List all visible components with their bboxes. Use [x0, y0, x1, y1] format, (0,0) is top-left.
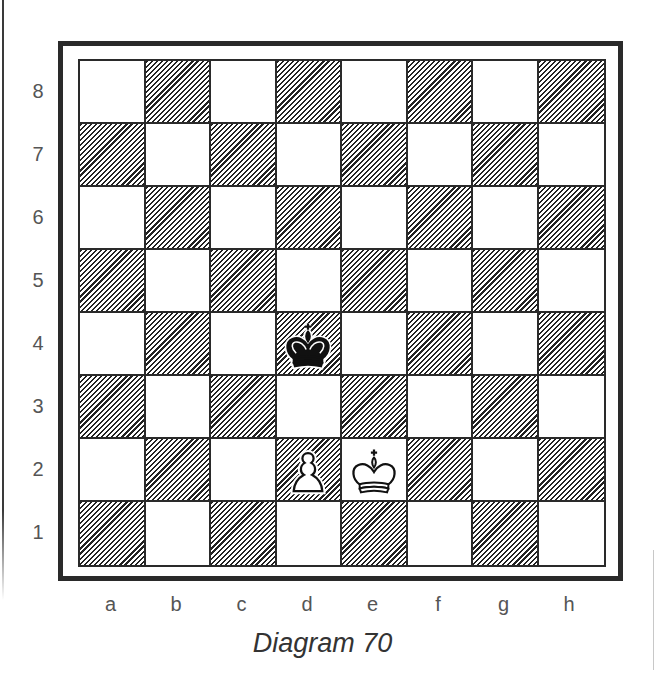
file-label-d: d — [297, 594, 317, 614]
square-h6 — [539, 187, 605, 250]
black-king-icon — [277, 313, 341, 374]
file-label-b: b — [166, 594, 186, 614]
square-h4 — [539, 313, 605, 376]
square-f3 — [408, 376, 474, 439]
square-h3 — [539, 376, 605, 439]
square-g3 — [473, 376, 539, 439]
square-h7 — [539, 124, 605, 187]
square-d1 — [277, 502, 343, 565]
file-label-e: e — [363, 594, 383, 614]
square-g8 — [473, 61, 539, 124]
square-g7 — [473, 124, 539, 187]
square-g1 — [473, 502, 539, 565]
rank-label-2: 2 — [28, 459, 48, 479]
rank-label-6: 6 — [28, 207, 48, 227]
file-label-f: f — [428, 594, 448, 614]
file-label-g: g — [494, 594, 514, 614]
rank-label-5: 5 — [28, 270, 48, 290]
square-f7 — [408, 124, 474, 187]
square-d8 — [277, 61, 343, 124]
square-h1 — [539, 502, 605, 565]
square-a2 — [80, 439, 146, 502]
rank-label-8: 8 — [28, 81, 48, 101]
square-g4 — [473, 313, 539, 376]
square-e1 — [342, 502, 408, 565]
square-d6 — [277, 187, 343, 250]
square-g5 — [473, 250, 539, 313]
white-king-icon — [342, 439, 406, 500]
square-b4 — [146, 313, 212, 376]
file-label-a: a — [101, 594, 121, 614]
page-edge-rule-right — [653, 550, 654, 670]
diagram-caption: Diagram 70 — [0, 628, 645, 659]
rank-label-7: 7 — [28, 144, 48, 164]
square-f1 — [408, 502, 474, 565]
square-a6 — [80, 187, 146, 250]
square-e2 — [342, 439, 408, 502]
square-f2 — [408, 439, 474, 502]
square-b5 — [146, 250, 212, 313]
square-g6 — [473, 187, 539, 250]
square-d7 — [277, 124, 343, 187]
square-b8 — [146, 61, 212, 124]
square-h5 — [539, 250, 605, 313]
page-edge-rule-left — [2, 0, 4, 600]
square-a8 — [80, 61, 146, 124]
square-h8 — [539, 61, 605, 124]
file-label-h: h — [559, 594, 579, 614]
square-d3 — [277, 376, 343, 439]
file-label-c: c — [232, 594, 252, 614]
square-e7 — [342, 124, 408, 187]
square-b2 — [146, 439, 212, 502]
square-a1 — [80, 502, 146, 565]
square-f8 — [408, 61, 474, 124]
white-pawn-icon — [277, 439, 341, 500]
square-c1 — [211, 502, 277, 565]
square-c4 — [211, 313, 277, 376]
rank-label-3: 3 — [28, 396, 48, 416]
square-b3 — [146, 376, 212, 439]
square-h2 — [539, 439, 605, 502]
square-c8 — [211, 61, 277, 124]
square-a4 — [80, 313, 146, 376]
square-b7 — [146, 124, 212, 187]
square-c7 — [211, 124, 277, 187]
square-e8 — [342, 61, 408, 124]
square-b6 — [146, 187, 212, 250]
square-c2 — [211, 439, 277, 502]
square-d2 — [277, 439, 343, 502]
square-f6 — [408, 187, 474, 250]
chess-board — [78, 59, 606, 567]
square-e5 — [342, 250, 408, 313]
square-a3 — [80, 376, 146, 439]
square-e6 — [342, 187, 408, 250]
square-a7 — [80, 124, 146, 187]
square-e4 — [342, 313, 408, 376]
square-d5 — [277, 250, 343, 313]
square-d4 — [277, 313, 343, 376]
rank-label-4: 4 — [28, 333, 48, 353]
square-b1 — [146, 502, 212, 565]
square-e3 — [342, 376, 408, 439]
square-c6 — [211, 187, 277, 250]
square-f4 — [408, 313, 474, 376]
square-c3 — [211, 376, 277, 439]
square-c5 — [211, 250, 277, 313]
square-f5 — [408, 250, 474, 313]
rank-label-1: 1 — [28, 522, 48, 542]
square-g2 — [473, 439, 539, 502]
square-a5 — [80, 250, 146, 313]
